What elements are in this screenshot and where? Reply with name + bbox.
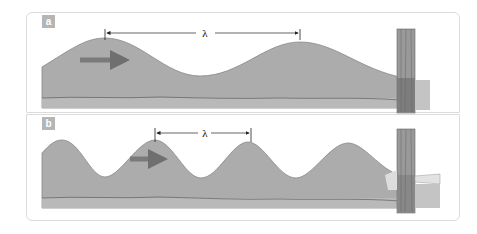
wave-diagram: λ λ bbox=[0, 0, 477, 234]
wave-a bbox=[42, 38, 412, 108]
post-a bbox=[397, 29, 430, 113]
lambda-label-a: λ bbox=[202, 27, 208, 39]
wave-b bbox=[42, 140, 402, 208]
lambda-label-b: λ bbox=[202, 127, 208, 139]
